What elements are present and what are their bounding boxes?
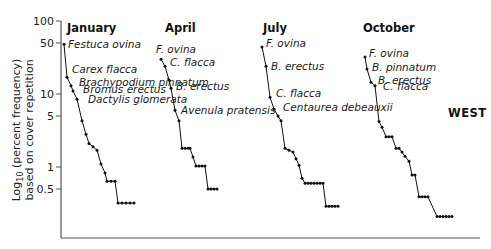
- data-point: [442, 215, 445, 218]
- data-point: [110, 180, 113, 183]
- data-point: [404, 155, 407, 158]
- species-label: B. erectus: [271, 60, 325, 72]
- data-point: [213, 187, 216, 190]
- data-point: [204, 165, 207, 168]
- panel-titles: JanuaryAprilJulyOctober: [66, 21, 415, 35]
- data-point: [398, 147, 401, 150]
- data-point: [106, 180, 109, 183]
- species-label: Centaurea debeauxii: [283, 101, 393, 113]
- data-point: [210, 187, 213, 190]
- data-point: [192, 156, 195, 159]
- y-axis-label: Log10 (percent frequency) based on cover…: [10, 59, 36, 202]
- data-point: [328, 205, 331, 208]
- series-group: Festuca ovinaCarex flaccaBrachypodium pi…: [63, 37, 454, 218]
- data-point: [304, 182, 307, 185]
- data-point: [72, 89, 75, 92]
- data-point: [391, 135, 394, 138]
- data-point: [445, 215, 448, 218]
- data-point: [451, 215, 454, 218]
- data-point: [364, 56, 367, 59]
- data-point: [121, 202, 124, 205]
- data-point: [265, 65, 268, 68]
- species-label: Carex flacca: [72, 63, 137, 75]
- y-tick-label: 50: [40, 37, 54, 50]
- ylabel-line1-rest: (percent frequency): [10, 59, 23, 172]
- data-point: [370, 81, 373, 84]
- species-label: C. flacca: [383, 80, 428, 92]
- ylabel-line2: based on cover repetition: [23, 59, 36, 200]
- data-point: [280, 119, 283, 122]
- species-label: B. pinnatum: [372, 61, 436, 73]
- data-point: [66, 76, 69, 79]
- data-point: [295, 157, 298, 160]
- data-point: [288, 149, 291, 152]
- data-point: [411, 173, 414, 176]
- data-point: [414, 173, 417, 176]
- species-label: C. flacca: [276, 87, 321, 99]
- y-tick-label: 0.5: [37, 183, 55, 196]
- data-point: [316, 182, 319, 185]
- species-frequency-chart: Log10 (percent frequency) based on cover…: [0, 0, 491, 249]
- y-tick-label: 1: [47, 161, 54, 174]
- data-point: [388, 135, 391, 138]
- data-point: [424, 195, 427, 198]
- data-point: [292, 151, 295, 154]
- data-point: [448, 215, 451, 218]
- data-point: [298, 164, 301, 167]
- data-point: [129, 202, 132, 205]
- panel-title-july: July: [262, 21, 287, 35]
- y-tick-label: 10: [40, 88, 54, 101]
- panel-title-october: October: [363, 21, 415, 35]
- data-point: [439, 215, 442, 218]
- data-point: [334, 205, 337, 208]
- data-point: [85, 133, 88, 136]
- data-point: [207, 187, 210, 190]
- panel-title-january: January: [66, 21, 117, 35]
- species-label: F. ovina: [369, 47, 409, 59]
- data-point: [160, 58, 163, 61]
- species-label: C. flacca: [170, 56, 215, 68]
- data-point: [76, 98, 79, 101]
- data-point: [374, 84, 377, 87]
- y-ticks: 1005010510.5: [33, 15, 61, 196]
- data-point: [104, 171, 107, 174]
- series-april: F. ovinaC. flaccaB. erectusAvenula prate…: [156, 43, 276, 190]
- data-point: [96, 149, 99, 152]
- data-point: [63, 43, 66, 46]
- data-point: [378, 120, 381, 123]
- data-point: [195, 165, 198, 168]
- data-point: [92, 145, 95, 148]
- data-point: [174, 109, 177, 112]
- data-point: [307, 182, 310, 185]
- data-point: [117, 202, 120, 205]
- data-point: [418, 195, 421, 198]
- data-point: [189, 147, 192, 150]
- data-point: [319, 182, 322, 185]
- species-label: F. ovina: [266, 37, 306, 49]
- series-october: F. ovinaB. pinnatumB. erectusC. flacca: [364, 47, 454, 218]
- y-tick-label: 100: [33, 15, 54, 28]
- data-point: [385, 135, 388, 138]
- data-point: [337, 205, 340, 208]
- ylabel-line1-log: Log: [10, 182, 23, 202]
- data-point: [184, 147, 187, 150]
- data-point: [331, 205, 334, 208]
- data-point: [170, 87, 173, 90]
- data-point: [277, 114, 280, 117]
- data-point: [366, 68, 369, 71]
- y-tick-label: 5: [47, 110, 54, 123]
- data-point: [284, 147, 287, 150]
- species-label: F. ovina: [156, 43, 196, 55]
- data-point: [88, 142, 91, 145]
- data-point: [269, 96, 272, 99]
- data-point: [201, 165, 204, 168]
- data-point: [178, 119, 181, 122]
- data-point: [408, 160, 411, 163]
- species-label: Festuca ovina: [68, 38, 141, 50]
- data-point: [70, 84, 73, 87]
- data-point: [216, 187, 219, 190]
- species-label: Avenula pratensis: [180, 104, 276, 116]
- data-point: [301, 177, 304, 180]
- species-label: B. erectus: [176, 80, 230, 92]
- data-point: [273, 108, 276, 111]
